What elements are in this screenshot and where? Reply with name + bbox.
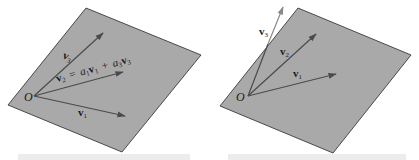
right-plane bbox=[220, 8, 411, 153]
left-panel: O v3 v1 v2 = a1v1 + a3v3 bbox=[8, 8, 201, 152]
left-plane bbox=[8, 8, 201, 152]
right-shadow-bar bbox=[228, 154, 406, 160]
left-shadow-bar bbox=[18, 154, 190, 160]
right-panel: O v3 v2 v1 bbox=[220, 7, 411, 153]
linear-dependence-figure: O v3 v1 v2 = a1v1 + a3v3 O v3 v2 v1 bbox=[0, 0, 419, 160]
right-label-v3: v3 bbox=[259, 25, 269, 39]
right-origin-label: O bbox=[236, 90, 245, 104]
left-origin-label: O bbox=[24, 90, 33, 104]
